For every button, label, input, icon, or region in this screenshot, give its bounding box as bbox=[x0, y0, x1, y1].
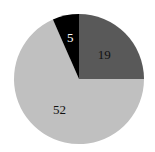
pie-chart: 19 52 5 bbox=[0, 0, 155, 152]
pie-slice-0 bbox=[79, 14, 144, 79]
pie-slices bbox=[14, 14, 144, 144]
slice-label-1: 52 bbox=[53, 102, 66, 117]
slice-label-2: 5 bbox=[67, 30, 74, 45]
slice-label-0: 19 bbox=[98, 47, 111, 62]
